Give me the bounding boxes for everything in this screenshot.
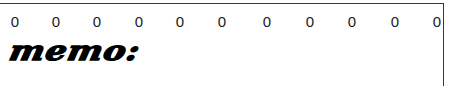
zero-marker: 0 <box>263 12 271 32</box>
zero-marker: 0 <box>176 12 184 32</box>
zero-marker: 0 <box>306 12 314 32</box>
zero-marker: 0 <box>218 12 226 32</box>
zero-marker: 0 <box>348 12 356 32</box>
zero-row: 0 0 0 0 0 0 0 0 0 0 0 <box>0 12 453 32</box>
zero-marker: 0 <box>52 12 60 32</box>
zero-marker: 0 <box>391 12 399 32</box>
zero-marker: 0 <box>433 12 441 32</box>
zero-marker: 0 <box>11 12 19 32</box>
zero-marker: 0 <box>93 12 101 32</box>
zero-marker: 0 <box>135 12 143 32</box>
memo-heading: memo: <box>7 36 143 66</box>
